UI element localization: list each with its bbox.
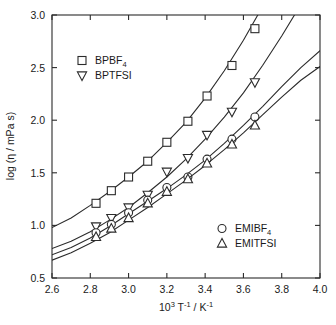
datapoint-BPBF4 xyxy=(203,92,211,100)
datapoint-BPBF4 xyxy=(163,138,171,146)
legend-entry-BPBF4[interactable]: BPBF4 xyxy=(78,54,127,69)
legend-marker-circle xyxy=(218,225,226,233)
legend-marker-triangle-down xyxy=(77,72,86,81)
y-axis-tick-labels: 0.51.01.52.02.53.0 xyxy=(30,9,45,284)
y-tick-label: 2.5 xyxy=(30,62,45,74)
datapoint-BPBF4 xyxy=(228,61,236,69)
legend-entry-BPTFSI[interactable]: BPTFSI xyxy=(77,69,131,81)
y-tick-label: 2.0 xyxy=(30,114,45,126)
x-axis-tick-labels: 2.62.83.03.23.43.63.84.0 xyxy=(45,283,328,295)
x-axis-title-exp2: -1 xyxy=(184,300,191,309)
x-tick-label: 3.4 xyxy=(198,283,213,295)
datapoint-BPTFSI xyxy=(183,154,192,163)
y-tick-label: 0.5 xyxy=(30,272,45,284)
x-tick-label: 3.6 xyxy=(236,283,251,295)
legend-label-BPBF4: BPBF4 xyxy=(95,54,127,69)
legend-label-EMIBF4: EMIBF4 xyxy=(235,222,271,237)
datapoint-BPBF4 xyxy=(184,117,192,125)
curve-BPTFSI xyxy=(52,0,309,249)
legend-entry-EMITFSI[interactable]: EMITFSI xyxy=(217,237,276,249)
chart-figure: 2.62.83.03.23.43.63.84.0 0.51.01.52.02.5… xyxy=(0,0,336,325)
viscosity-arrhenius-plot: 2.62.83.03.23.43.63.84.0 0.51.01.52.02.5… xyxy=(0,0,336,325)
x-axis-title-base: 10 xyxy=(159,301,171,313)
x-tick-label: 3.2 xyxy=(160,283,175,295)
y-tick-label: 3.0 xyxy=(30,9,45,21)
y-axis-title: log (η / mPa s) xyxy=(4,112,16,180)
x-tick-label: 3.8 xyxy=(274,283,289,295)
legend-top-left: BPBF4BPTFSI xyxy=(77,54,131,81)
legend-marker-square xyxy=(78,57,86,65)
x-tick-label: 4.0 xyxy=(313,283,328,295)
datapoint-BPBF4 xyxy=(107,187,115,195)
datapoint-BPTFSI xyxy=(202,131,211,140)
legend-marker-triangle-up xyxy=(217,239,226,248)
datapoint-BPTFSI xyxy=(227,108,236,117)
series-BPTFSI xyxy=(52,0,309,249)
y-tick-label: 1.0 xyxy=(30,219,45,231)
x-tick-label: 2.8 xyxy=(83,283,98,295)
legend-label-EMITFSI: EMITFSI xyxy=(235,237,276,249)
legend-label-BPTFSI: BPTFSI xyxy=(95,69,132,81)
datapoint-BPBF4 xyxy=(125,173,133,181)
x-axis-title-exp3: -1 xyxy=(206,300,213,309)
datapoint-BPBF4 xyxy=(92,199,100,207)
data-series-layer xyxy=(52,0,320,260)
datapoint-BPTFSI xyxy=(250,79,259,88)
x-tick-label: 3.0 xyxy=(121,283,136,295)
datapoint-BPBF4 xyxy=(144,157,152,165)
legend-bottom-right: EMIBF4EMITFSI xyxy=(217,222,276,249)
legend-entry-EMIBF4[interactable]: EMIBF4 xyxy=(218,222,271,237)
x-axis-title: 103 T-1 / K-1 xyxy=(159,300,213,313)
datapoint-BPTFSI xyxy=(162,168,171,177)
y-tick-label: 1.5 xyxy=(30,167,45,179)
datapoint-BPBF4 xyxy=(251,25,259,33)
x-tick-label: 2.6 xyxy=(45,283,60,295)
